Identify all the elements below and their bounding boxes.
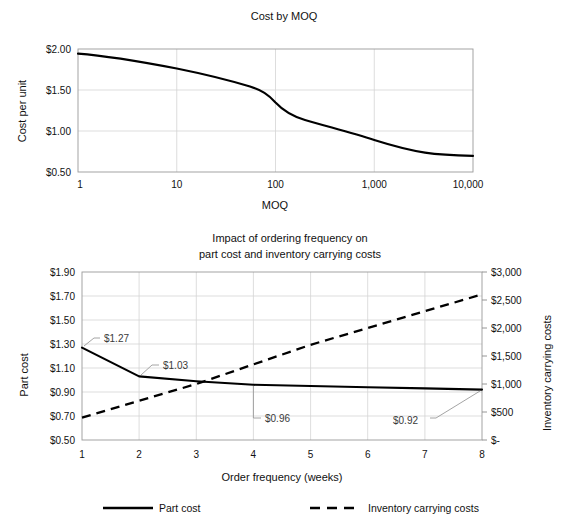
annotation-label: $0.92	[393, 415, 418, 426]
legend-label-part-cost: Part cost	[159, 502, 201, 514]
chart-title-line-2: part cost and inventory carrying costs	[199, 248, 382, 260]
series-inventory-carrying-costs	[82, 294, 482, 417]
y-tick-label-left: $0.90	[50, 387, 75, 398]
y-tick-label-right: $2,500	[491, 295, 522, 306]
x-axis-title-order-frequency: Order frequency (weeks)	[221, 471, 342, 483]
y-axis-left-ticks: $1.90 $1.70 $1.50 $1.30 $1.10 $0.90 $0.7…	[50, 267, 75, 446]
x-axis-title-moq: MOQ	[262, 199, 289, 211]
x-tick-label: 100	[267, 179, 284, 190]
annotation-label: $1.27	[104, 333, 129, 344]
x-tick-label: 6	[365, 449, 371, 460]
y-tick-label-left: $1.30	[50, 339, 75, 350]
y-tick-label-left: $1.70	[50, 291, 75, 302]
cost-by-moq-svg: Cost by MOQ Cost per unit $2.00 $1.50 $1…	[0, 0, 569, 220]
x-axis-ticks: 1 10 100 1,000 10,000	[77, 179, 484, 190]
y-tick-label: $2.00	[46, 44, 71, 55]
x-tick-label: 10	[171, 179, 183, 190]
y-axis-title-part-cost: Part cost	[18, 353, 30, 396]
y-tick-label: $1.50	[46, 85, 71, 96]
y-tick-label-right: $-	[491, 435, 500, 446]
x-tick-label: 10,000	[453, 179, 484, 190]
y-tick-label-left: $0.50	[50, 435, 75, 446]
x-axis-ticks: 1 2 3 4 5 6 7 8	[79, 449, 485, 460]
y-tick-label-right: $3,000	[491, 267, 522, 278]
y-tick-label-right: $500	[491, 407, 514, 418]
y-tick-label-right: $1,000	[491, 379, 522, 390]
chart-ordering-frequency-impact: Impact of ordering frequency on part cos…	[0, 220, 569, 530]
x-tick-label: 3	[194, 449, 200, 460]
y-tick-label-left: $1.10	[50, 363, 75, 374]
gridlines-vertical	[177, 49, 375, 172]
x-tick-label: 8	[479, 449, 485, 460]
x-tick-label: 7	[422, 449, 428, 460]
chart-title-line-1: Impact of ordering frequency on	[212, 232, 367, 244]
y-axis-ticks: $2.00 $1.50 $1.00 $0.50	[46, 44, 71, 178]
annotation-1-03: $1.03	[141, 360, 188, 375]
legend-item-part-cost[interactable]: Part cost	[103, 502, 201, 514]
y-axis-title-cost-per-unit: Cost per unit	[16, 80, 28, 142]
series-part-cost	[82, 348, 482, 390]
y-axis-title-inventory-carrying-costs: Inventory carrying costs	[541, 314, 553, 431]
ordering-frequency-svg: Impact of ordering frequency on part cos…	[0, 220, 569, 530]
legend-label-inventory-carrying-costs: Inventory carrying costs	[368, 502, 479, 514]
y-tick-label-left: $0.70	[50, 411, 75, 422]
x-tick-label: 4	[251, 449, 257, 460]
chart-legend: Part cost Inventory carrying costs	[103, 502, 479, 514]
annotation-label: $0.96	[265, 413, 290, 424]
x-tick-label: 1	[77, 179, 83, 190]
x-tick-label: 5	[308, 449, 314, 460]
y-tick-label: $0.50	[46, 167, 71, 178]
annotation-0-92: $0.92	[393, 391, 480, 426]
gridlines-horizontal	[82, 296, 482, 416]
y-tick-label-left: $1.90	[50, 267, 75, 278]
y-tick-label: $1.00	[46, 126, 71, 137]
chart-cost-by-moq: Cost by MOQ Cost per unit $2.00 $1.50 $1…	[0, 0, 569, 220]
x-tick-label: 2	[136, 449, 142, 460]
y-tick-label-left: $1.50	[50, 315, 75, 326]
x-tick-label: 1,000	[362, 179, 387, 190]
chart-title-cost-by-moq: Cost by MOQ	[251, 10, 318, 22]
y-axis-right-ticks: $3,000 $2,500 $2,000 $1,500 $1,000 $500 …	[482, 267, 522, 446]
x-tick-label: 1	[79, 449, 85, 460]
legend-item-inventory-carrying-costs[interactable]: Inventory carrying costs	[310, 502, 479, 514]
y-tick-label-right: $1,500	[491, 351, 522, 362]
y-tick-label-right: $2,000	[491, 323, 522, 334]
annotation-label: $1.03	[163, 360, 188, 371]
